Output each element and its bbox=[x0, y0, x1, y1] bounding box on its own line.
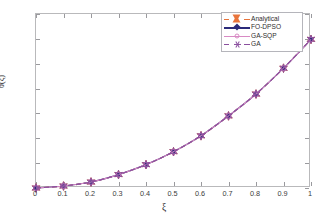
hexagram-open-icon bbox=[234, 41, 241, 48]
series-analytical bbox=[32, 35, 314, 192]
figure-canvas: 0.70.750.80.850.90.9511.05 θ(ξ) 00.10.20… bbox=[0, 0, 328, 222]
x-tick-label: 0.2 bbox=[85, 190, 95, 197]
legend-label: FO-DPSO bbox=[250, 24, 281, 31]
x-tick-label: 0.4 bbox=[140, 190, 150, 197]
legend-sample bbox=[224, 32, 250, 41]
x-tick-label: 0.5 bbox=[167, 190, 177, 197]
series-line bbox=[36, 39, 311, 188]
series-line bbox=[36, 39, 311, 188]
series-line bbox=[36, 39, 311, 188]
series-line bbox=[36, 39, 311, 188]
series-ga-sqp bbox=[34, 37, 314, 190]
x-tick-mark bbox=[311, 14, 312, 18]
legend-label: GA bbox=[250, 41, 261, 48]
series-ga bbox=[32, 35, 314, 192]
x-tick-mark bbox=[311, 182, 312, 186]
legend-item-fo-dpso[interactable]: FO-DPSO bbox=[224, 23, 300, 32]
legend-line-segment bbox=[224, 19, 229, 20]
x-tick-label: 0.8 bbox=[250, 190, 260, 197]
x-tick-label: 0.3 bbox=[112, 190, 122, 197]
series-fo-dpso bbox=[33, 36, 313, 191]
legend-sample bbox=[224, 40, 250, 49]
legend-sample bbox=[224, 15, 250, 24]
legend-label: GA-SQP bbox=[250, 33, 277, 40]
legend-item-ga-sqp[interactable]: GA-SQP bbox=[224, 32, 300, 41]
x-tick-label: 1 bbox=[308, 190, 312, 197]
x-tick-label: 0.1 bbox=[57, 190, 67, 197]
legend-sample bbox=[224, 23, 250, 32]
x-tick-label: 0.9 bbox=[277, 190, 287, 197]
diamond-filled-icon bbox=[233, 24, 240, 31]
hexagram-filled-icon bbox=[233, 14, 242, 23]
legend-line-segment bbox=[224, 44, 229, 45]
x-axis-title: ξ bbox=[0, 202, 328, 212]
legend-line-segment bbox=[244, 44, 250, 45]
legend[interactable]: AnalyticalFO-DPSOGA-SQPGA bbox=[221, 12, 303, 52]
circle-open-icon bbox=[235, 33, 240, 38]
legend-item-ga[interactable]: GA bbox=[224, 40, 300, 49]
y-axis-title: θ(ξ) bbox=[0, 75, 6, 88]
legend-label: Analytical bbox=[250, 16, 279, 23]
x-tick-label: 0.7 bbox=[222, 190, 232, 197]
x-tick-label: 0 bbox=[33, 190, 37, 197]
legend-line-segment bbox=[244, 19, 250, 20]
legend-item-analytical[interactable]: Analytical bbox=[224, 15, 300, 24]
x-tick-label: 0.6 bbox=[195, 190, 205, 197]
